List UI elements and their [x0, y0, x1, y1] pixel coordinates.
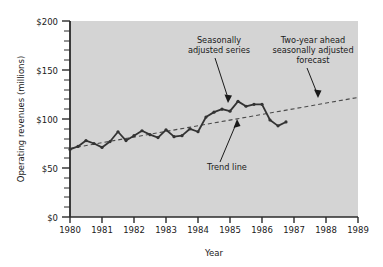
series-point [236, 100, 239, 103]
series-point [196, 130, 199, 133]
series-point [204, 115, 207, 118]
x-tick-label-1985: 1985 [219, 225, 241, 235]
x-tick-label-1988: 1988 [315, 225, 337, 235]
series-point [108, 140, 111, 143]
x-tick-label-1981: 1981 [91, 225, 113, 235]
y-tick-label-150: $150 [36, 66, 58, 76]
series-point [164, 128, 167, 131]
series-point [100, 146, 103, 149]
series-point [228, 110, 231, 113]
annotation-seasonal-line2: adjusted series [188, 45, 250, 55]
x-axis-title: Year [204, 248, 224, 258]
series-point [260, 103, 263, 106]
series-point [252, 103, 255, 106]
series-point [124, 139, 127, 142]
series-point [84, 139, 87, 142]
annotation-forecast-line3: forecast [296, 55, 330, 65]
chart-svg: $200 $150 $100 $50 $0 1980 1981 [0, 0, 383, 267]
y-tick-label-50: $50 [42, 164, 58, 174]
x-tick-label-1984: 1984 [187, 225, 209, 235]
series-point [132, 134, 135, 137]
series-point [116, 130, 119, 133]
annotation-forecast-line2: seasonally adjusted [272, 45, 353, 55]
x-tick-label-1986: 1986 [251, 225, 273, 235]
series-point [284, 120, 287, 123]
series-point [180, 134, 183, 137]
y-tick-label-0: $0 [47, 213, 58, 223]
series-point [268, 118, 271, 121]
series-point [156, 136, 159, 139]
x-tick-label-1983: 1983 [155, 225, 177, 235]
annotation-trend-label: Trend line [206, 162, 247, 172]
chart-container: $200 $150 $100 $50 $0 1980 1981 [0, 0, 383, 267]
y-tick-label-200: $200 [36, 17, 58, 27]
annotation-forecast-line1: Two-year ahead [280, 35, 346, 45]
annotation-seasonal-line1: Seasonally [197, 35, 241, 45]
x-tick-label-1980: 1980 [59, 225, 81, 235]
series-point [220, 108, 223, 111]
series-point [244, 105, 247, 108]
series-point [212, 111, 215, 114]
y-tick-label-100: $100 [36, 115, 58, 125]
x-tick-label-1982: 1982 [123, 225, 145, 235]
series-point [276, 124, 279, 127]
series-point [92, 142, 95, 145]
y-axis-title: Operating revenues (millions) [16, 56, 26, 183]
x-tick-label-1987: 1987 [283, 225, 305, 235]
series-point [68, 148, 71, 151]
series-point [188, 127, 191, 130]
x-tick-label-1989: 1989 [347, 225, 369, 235]
series-point [76, 145, 79, 148]
series-point [148, 133, 151, 136]
series-point [172, 135, 175, 138]
series-point [140, 129, 143, 132]
